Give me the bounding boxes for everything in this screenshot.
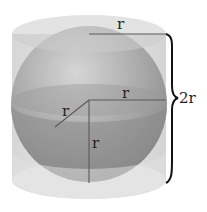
sphere-in-cylinder-diagram: r r r r 2r (0, 0, 207, 212)
height-label: 2r (179, 89, 197, 107)
vertical-radius-label: r (92, 134, 100, 152)
slant-radius-label: r (62, 102, 70, 120)
height-brace-icon (166, 34, 178, 183)
top-radius-label: r (117, 15, 125, 33)
equator-radius-label: r (122, 84, 130, 102)
